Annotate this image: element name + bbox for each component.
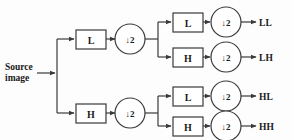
output-label-LH: LH <box>259 53 274 63</box>
downsample-circle-4-label: ↓2 <box>222 53 232 63</box>
source-image-label: Source image <box>5 62 33 83</box>
stage1-highpass-downsampler: ↓2 <box>115 98 145 128</box>
stage2-HL-downsampler: ↓2 <box>211 81 241 111</box>
downsample-circle-2-label: ↓2 <box>126 109 136 119</box>
downsample-circle-5-label: ↓2 <box>222 92 232 102</box>
output-label-HH: HH <box>259 122 275 132</box>
output-label-LL: LL <box>259 18 272 28</box>
stage2-LL-downsampler: ↓2 <box>211 7 241 37</box>
filter-box-L1-label: L <box>88 35 95 46</box>
stage2-HH-filter: H <box>173 117 203 136</box>
filter-box-H3-label: H <box>184 122 192 133</box>
stage2-LH-filter: H <box>173 48 203 67</box>
stage1-highpass-filter: H <box>76 104 106 123</box>
filter-box-L2-label: L <box>185 18 192 29</box>
output-label-HL: HL <box>259 92 273 102</box>
downsample-circle-1-label: ↓2 <box>126 35 136 45</box>
filter-box-H2-label: H <box>184 53 192 64</box>
filter-box-H1-label: H <box>87 109 95 120</box>
stage1-lowpass-filter: L <box>76 30 106 49</box>
stage1-lowpass-downsampler: ↓2 <box>115 24 145 54</box>
stage2-LL-filter: L <box>173 13 203 32</box>
downsample-circle-6-label: ↓2 <box>222 122 232 132</box>
downsample-circle-3-label: ↓2 <box>222 18 232 28</box>
source-label-line1: Source <box>5 62 33 72</box>
stage2-HL-filter: L <box>173 87 203 106</box>
filter-box-L3-label: L <box>185 92 192 103</box>
wavelet-filter-bank-diagram: Source image L ↓2 H ↓2 L ↓2 LL <box>0 0 292 140</box>
stage2-HH-downsampler: ↓2 <box>211 111 241 140</box>
stage2-LH-downsampler: ↓2 <box>211 42 241 72</box>
source-label-line2: image <box>5 73 29 83</box>
